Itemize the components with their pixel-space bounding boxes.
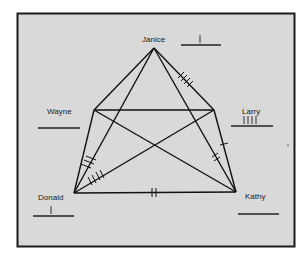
node-label-janice: Janice: [142, 35, 166, 44]
node-label-kathy: Kathy: [245, 192, 265, 201]
node-label-larry: Larry: [242, 107, 260, 116]
node-label-wayne: Wayne: [47, 107, 72, 116]
diagram-frame: [18, 14, 295, 247]
edge-donald-kathy: [74, 192, 236, 193]
sociogram-diagram: Janice Wayne Larry Donald Kathy: [0, 0, 308, 262]
stray-dot: [287, 144, 289, 146]
node-label-donald: Donald: [38, 193, 63, 202]
